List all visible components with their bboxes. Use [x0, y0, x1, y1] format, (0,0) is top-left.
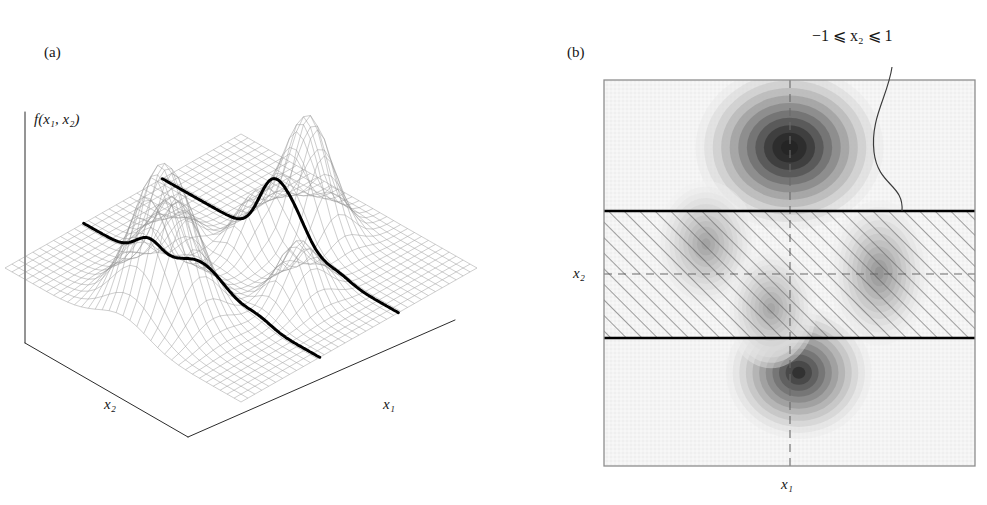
mesh-line [144, 156, 380, 334]
mesh-line [151, 185, 387, 319]
mesh-line [12, 264, 248, 398]
mesh-line [179, 125, 415, 304]
surface-plot-svg [0, 0, 490, 505]
mesh-line [186, 116, 422, 300]
panel-b-density-plot: (b) −1 ⩽ x₂ ⩽ 1 x₂ x₁ [490, 0, 987, 505]
figure-canvas: (a) f(x₁, x₂) x₂ x₁ [0, 0, 987, 505]
mesh-line [5, 268, 241, 402]
band-annotation-label: −1 ⩽ x₂ ⩽ 1 [812, 26, 893, 45]
axis-label-x1: x₁ [383, 396, 395, 413]
density-plot-svg [490, 0, 987, 505]
mesh-line [227, 260, 463, 394]
hatched-band-group [604, 211, 975, 338]
mesh-line [19, 142, 255, 276]
axis-label-x2-panel-b: x₂ [573, 265, 585, 282]
panel-a-surface-plot: (a) f(x₁, x₂) x₂ x₁ [0, 0, 490, 505]
hatched-band-fill [604, 211, 975, 338]
mesh-line [47, 158, 283, 292]
mesh-line [199, 150, 435, 292]
contour-ring [792, 367, 805, 379]
mesh-line [123, 201, 359, 335]
mesh-line [227, 142, 463, 276]
axis-label-x2: x₂ [104, 396, 116, 413]
floor-edge-right [188, 320, 455, 437]
mesh-line [123, 117, 359, 316]
mesh-line [172, 147, 408, 307]
panel-a-tag: (a) [44, 44, 61, 61]
mesh-line [88, 221, 324, 355]
panel-b-tag: (b) [567, 44, 585, 61]
mesh-line [220, 256, 456, 390]
mesh-line [206, 248, 442, 382]
floor-edge-left [25, 343, 188, 437]
mesh-line [165, 174, 401, 312]
mesh-line [26, 233, 262, 390]
mesh-line [137, 130, 373, 327]
mesh-line [74, 229, 310, 363]
mesh-line [61, 187, 297, 370]
axis-label-x1-panel-b: x₁ [781, 476, 793, 493]
mesh-line [213, 252, 449, 386]
wireframe-mesh [5, 116, 477, 403]
f-axis-label: f(x₁, x₂) [34, 111, 79, 128]
mesh-line [234, 138, 470, 272]
axis-frame [25, 112, 455, 437]
mesh-line [5, 134, 241, 268]
